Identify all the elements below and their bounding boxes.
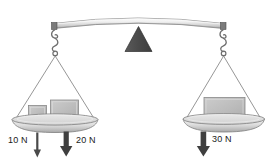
force-arrow-30n [197,132,210,157]
left-hook [52,30,58,56]
right-hook [220,30,226,56]
force-label-30n: 30 N [212,135,232,144]
right-pan [183,114,265,132]
force-label-20n: 20 N [76,136,96,145]
beam-left-end-cap [52,23,58,30]
balance-scale-drawing [0,0,277,164]
force-arrow-10n [34,133,41,158]
force-label-10n: 10 N [8,136,28,145]
left-pan [12,114,98,133]
force-arrow-20n [60,132,72,157]
balance-scale-diagram: 10 N 20 N 30 N [0,0,277,164]
beam-right-end-cap [221,23,227,30]
triangular-fulcrum [125,27,152,52]
